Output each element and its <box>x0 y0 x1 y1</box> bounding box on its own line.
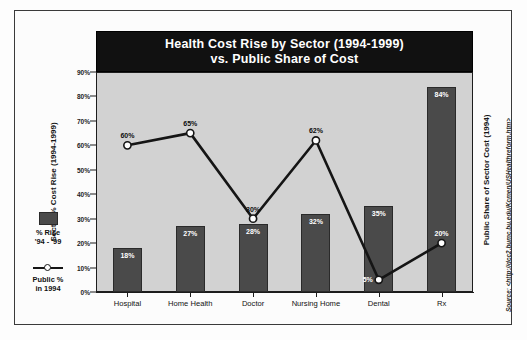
legend-bar-swatch <box>39 212 58 225</box>
line-path <box>127 133 441 280</box>
y-tick-label: 60% <box>56 142 90 149</box>
chart-title-line-1: Health Cost Rise by Sector (1994-1999) <box>165 37 404 52</box>
source-note: Source: <http://dcc2.bumc.bu.edu/Kcmen/U… <box>505 118 512 312</box>
x-axis-line <box>96 292 474 293</box>
chart-title-band: Health Cost Rise by Sector (1994-1999) v… <box>96 31 473 72</box>
legend-line-label-1: Public % <box>22 275 74 284</box>
legend-spacer <box>22 246 74 263</box>
line-point-marker <box>124 142 131 149</box>
x-tick-mark <box>316 292 317 297</box>
line-point-marker <box>187 130 194 137</box>
y-tick-label: 80% <box>56 93 90 100</box>
x-tick-mark <box>253 292 254 297</box>
line-value-label: 5% <box>363 276 373 283</box>
legend-bar-label-1: % Rise <box>22 228 74 237</box>
line-value-label: 65% <box>183 120 197 127</box>
x-category-label: Rx <box>437 299 446 308</box>
y-tick-label: 40% <box>56 191 90 198</box>
chart-legend: % Rise '94 - '99 Public % in 1994 <box>22 212 74 293</box>
x-category-label: Nursing Home <box>292 299 341 308</box>
chart-page: Health Cost Rise by Sector (1994-1999) v… <box>0 0 527 340</box>
legend-bar-label-2: '94 - '99 <box>22 237 74 246</box>
y-tick-label: 70% <box>56 117 90 124</box>
line-value-label: 30% <box>246 206 260 213</box>
x-category-label: Home Health <box>168 299 212 308</box>
line-series <box>96 72 473 292</box>
x-tick-mark <box>127 292 128 297</box>
y-tick-label: 90% <box>56 69 90 76</box>
line-value-label: 20% <box>435 230 449 237</box>
line-point-marker <box>249 215 256 222</box>
legend-line-marker-icon <box>44 264 51 271</box>
line-point-marker <box>312 137 319 144</box>
x-tick-mark <box>379 292 380 297</box>
legend-line-label-2: in 1994 <box>22 284 74 293</box>
x-tick-mark <box>190 292 191 297</box>
y-tick-label: 50% <box>56 166 90 173</box>
line-point-marker <box>438 240 445 247</box>
x-category-label: Dental <box>368 299 390 308</box>
line-point-marker <box>375 276 382 283</box>
legend-line-swatch <box>33 263 63 272</box>
chart-title-line-2: vs. Public Share of Cost <box>211 52 359 67</box>
line-value-label: 60% <box>120 132 134 139</box>
secondary-y-axis-title: Public Share of Sector Cost (1994) <box>482 115 491 246</box>
x-category-label: Hospital <box>114 299 141 308</box>
line-value-label: 62% <box>309 127 323 134</box>
x-tick-mark <box>442 292 443 297</box>
x-category-label: Doctor <box>242 299 264 308</box>
